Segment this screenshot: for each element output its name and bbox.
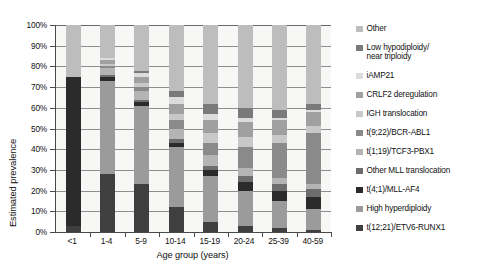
bar-segment[interactable] [272,120,287,134]
x-axis-tick-mark [331,232,332,237]
bar-segment[interactable] [134,83,149,87]
bar-segment[interactable] [272,25,287,110]
bar-segment[interactable] [169,120,184,128]
bar-segment[interactable] [169,147,184,207]
bar-column[interactable] [203,25,218,232]
bar-column[interactable] [134,25,149,232]
legend-item[interactable]: t(12;21)/ETV6-RUNX1 [356,223,484,232]
bar-segment[interactable] [100,25,115,58]
bar-segment[interactable] [134,25,149,71]
bar-segment[interactable] [272,184,287,190]
bar-segment[interactable] [169,91,184,97]
legend-item[interactable]: Other [356,24,484,33]
legend-item[interactable]: Low hypodiploidy/ near triploidy [356,43,484,62]
bar-column[interactable] [169,25,184,232]
bar-segment[interactable] [203,120,218,132]
y-axis-title: Estimated prevalence [7,118,18,248]
bar-segment[interactable] [66,226,81,232]
legend-item[interactable]: Other MLL translocation [356,166,484,175]
bar-segment[interactable] [169,129,184,139]
bar-segment[interactable] [169,207,184,232]
bar-segment[interactable] [100,77,115,81]
bar-segment[interactable] [238,25,253,108]
bar-segment[interactable] [203,222,218,232]
legend-item[interactable]: t(1;19)/TCF3-PBX1 [356,147,484,156]
bar-segment[interactable] [134,102,149,106]
bar-segment[interactable] [203,176,218,222]
legend-item[interactable]: iAMP21 [356,71,484,80]
bar-segment[interactable] [306,110,321,112]
bar-segment[interactable] [134,77,149,83]
bar-segment[interactable] [203,114,218,120]
bar-column[interactable] [306,25,321,232]
bar-segment[interactable] [203,155,218,165]
bar-segment[interactable] [134,184,149,232]
bar-segment[interactable] [272,191,287,201]
bar-column[interactable] [238,25,253,232]
bar-segment[interactable] [306,230,321,232]
bar-segment[interactable] [100,64,115,66]
bar-segment[interactable] [169,25,184,91]
bar-segment[interactable] [272,178,287,184]
bar-segment[interactable] [306,209,321,230]
bar-segment[interactable] [238,147,253,168]
bar-segment[interactable] [66,25,81,77]
bar-segment[interactable] [134,71,149,73]
bar-segment[interactable] [272,118,287,120]
bar-segment[interactable] [238,137,253,147]
legend-item[interactable]: IGH translocation [356,109,484,118]
legend-item[interactable]: High hyperdiploidy [356,204,484,213]
bar-segment[interactable] [134,100,149,102]
bar-segment[interactable] [100,58,115,60]
bar-segment[interactable] [238,226,253,232]
bar-segment[interactable] [203,104,218,114]
bar-segment[interactable] [134,91,149,99]
bar-segment[interactable] [169,139,184,143]
legend-item[interactable]: t(4;1)/MLL-AF4 [356,185,484,194]
bar-segment[interactable] [169,104,184,114]
bar-segment[interactable] [238,182,253,190]
bar-segment[interactable] [100,81,115,174]
bar-segment[interactable] [272,228,287,232]
bar-segment[interactable] [203,170,218,176]
legend-item[interactable]: t(9;22)/BCR-ABL1 [356,128,484,137]
bar-segment[interactable] [134,106,149,185]
bar-segment[interactable] [272,135,287,143]
bar-segment[interactable] [169,114,184,120]
bar-segment[interactable] [306,112,321,126]
bar-segment[interactable] [306,133,321,185]
bar-segment[interactable] [306,189,321,197]
bar-segment[interactable] [203,143,218,155]
bar-segment[interactable] [134,73,149,77]
bar-segment[interactable] [238,118,253,122]
bar-column[interactable] [100,25,115,232]
bar-segment[interactable] [169,143,184,147]
bar-segment[interactable] [272,143,287,178]
bar-segment[interactable] [66,77,81,226]
bar-segment[interactable] [100,68,115,74]
bar-segment[interactable] [306,126,321,132]
bar-column[interactable] [272,25,287,232]
bar-segment[interactable] [100,60,115,64]
bar-segment[interactable] [306,184,321,188]
legend-item[interactable]: CRLF2 deregulation [356,90,484,99]
bar-segment[interactable] [238,108,253,118]
bar-segment[interactable] [203,25,218,104]
bar-segment[interactable] [306,25,321,104]
bar-segment[interactable] [238,176,253,182]
bar-segment[interactable] [272,201,287,228]
bar-segment[interactable] [134,87,149,91]
bar-segment[interactable] [238,168,253,176]
bar-segment[interactable] [203,133,218,143]
bar-segment[interactable] [203,166,218,170]
bar-segment[interactable] [306,104,321,110]
bar-segment[interactable] [100,75,115,77]
bar-segment[interactable] [169,97,184,103]
bar-segment[interactable] [272,110,287,118]
bar-column[interactable] [66,25,81,232]
bar-segment[interactable] [306,197,321,209]
bar-segment[interactable] [238,122,253,136]
bar-segment[interactable] [238,191,253,226]
bar-segment[interactable] [100,66,115,68]
bar-segment[interactable] [100,174,115,232]
